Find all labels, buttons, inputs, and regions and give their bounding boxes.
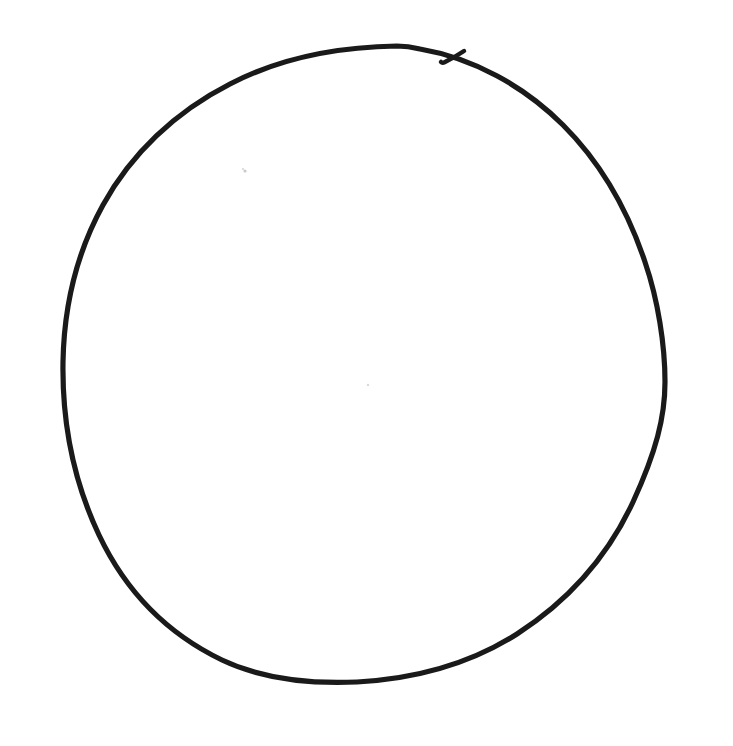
paper-speck — [367, 384, 369, 386]
hand-drawn-circle-svg — [0, 0, 733, 746]
sketch-canvas: Hand-drawn circle — [0, 0, 733, 746]
paper-speck — [242, 168, 244, 170]
paper-speck — [243, 169, 246, 172]
paper-background — [0, 0, 733, 746]
